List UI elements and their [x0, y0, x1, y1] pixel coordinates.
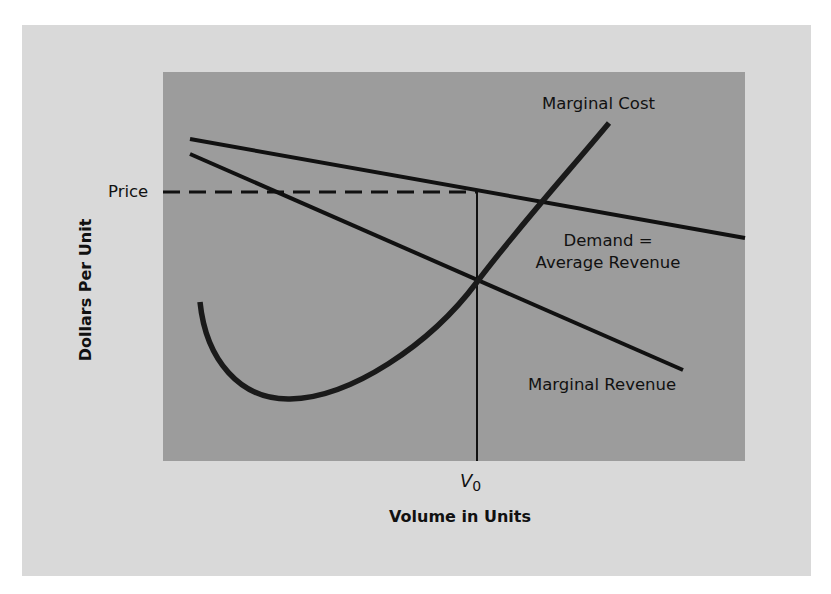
marginal-cost-label: Marginal Cost: [542, 96, 655, 113]
x-axis-label: Volume in Units: [360, 509, 560, 525]
price-label: Price: [108, 184, 148, 201]
demand-label-line1: Demand =: [520, 233, 696, 250]
demand-label-line2: Average Revenue: [520, 255, 696, 272]
v0-subscript: 0: [472, 478, 481, 494]
volume-v0-label: V0: [460, 472, 481, 493]
diagram-lines: [0, 0, 831, 594]
marginal-revenue-label: Marginal Revenue: [528, 377, 676, 394]
y-axis-label: Dollars Per Unit: [76, 219, 95, 362]
v0-symbol: V: [460, 470, 472, 491]
